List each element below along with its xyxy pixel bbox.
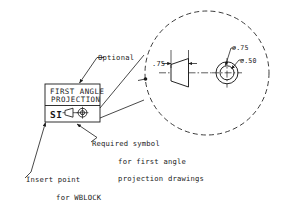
dimension-length-75 (162, 50, 197, 68)
drawing-canvas: FIRST ANGLE PROJECTION SI Optional Requi… (0, 0, 282, 208)
magnify-leader (100, 55, 144, 118)
symbol-box-title-line-2: PROJECTION (51, 95, 101, 104)
truncated-cone-icon (63, 108, 79, 117)
detail-concentric-circles (212, 58, 242, 88)
annotation-required-line-2: for first angle (110, 157, 186, 166)
annotation-insert-point: Insert point for WBLOCK (26, 176, 101, 202)
symbol-box-scale-label: SI (50, 109, 62, 121)
leader-insert-point (25, 123, 46, 179)
detail-truncated-cone (159, 59, 213, 88)
annotation-optional: Optional (98, 54, 134, 63)
dimension-label-diameter-inner: ⌀.50 (240, 57, 257, 65)
concentric-circles-icon (77, 107, 89, 119)
annotation-insert-line-1: Insert point (26, 175, 80, 184)
annotation-required-line-3: projection drawings (110, 174, 204, 183)
annotation-required-line-1: Required symbol (92, 139, 160, 148)
dimension-label-diameter-outer: ⌀.75 (232, 44, 249, 52)
dimension-label-length: .75 (152, 60, 165, 69)
annotation-required-symbol: Required symbol for first angle projecti… (92, 140, 204, 184)
annotation-insert-line-2: for WBLOCK (44, 193, 101, 202)
